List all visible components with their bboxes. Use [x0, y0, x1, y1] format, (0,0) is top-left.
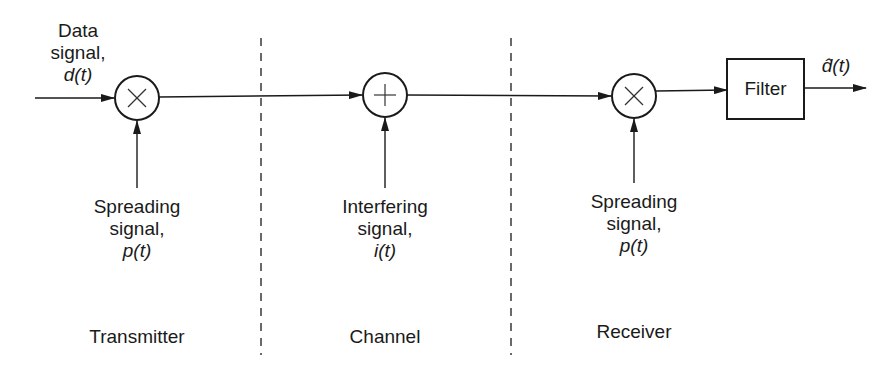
- tx-multiplier: [115, 76, 159, 120]
- channel-to-rx-line: [407, 95, 611, 96]
- interfering-label: Interfering signal, i(t): [325, 196, 445, 262]
- section-receiver: Receiver: [574, 321, 694, 343]
- data-signal-symbol: d(t): [38, 64, 118, 86]
- rx-spreading-label: Spreading signal, p(t): [574, 191, 694, 257]
- data-signal-label: Data signal, d(t): [38, 20, 118, 86]
- rx-to-filter-line: [656, 90, 727, 91]
- section-channel: Channel: [325, 326, 445, 348]
- data-signal-line1: Data: [38, 20, 118, 42]
- tx-to-channel-line: [159, 95, 362, 97]
- rx-multiplier: [612, 74, 656, 118]
- filter-label: Filter: [727, 59, 804, 119]
- channel-adder: [363, 73, 407, 117]
- diagram-canvas: [0, 0, 892, 367]
- section-transmitter: Transmitter: [77, 326, 197, 348]
- output-signal-label: d̂(t): [806, 55, 866, 77]
- tx-spreading-label: Spreading signal, p(t): [77, 196, 197, 262]
- data-signal-line2: signal,: [38, 42, 118, 64]
